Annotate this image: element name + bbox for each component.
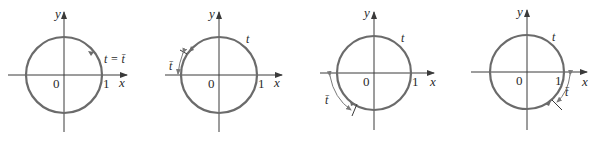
x-axis-label: x: [429, 74, 436, 89]
t-bar-label: t̄: [325, 93, 329, 107]
origin-label: 0: [53, 76, 60, 91]
t-label: t: [246, 32, 250, 46]
y-axis-label: y: [53, 6, 61, 21]
reference-arc: [330, 76, 351, 110]
panel-1: y x 0 1 t = t̄: [8, 6, 127, 132]
x-axis-label: x: [273, 75, 280, 90]
t-bar-label: t̄: [169, 59, 173, 73]
t-bar-label: t̄: [565, 85, 569, 99]
origin-label: 0: [363, 74, 370, 89]
t-label: t = t̄: [104, 52, 126, 66]
y-axis-label: y: [515, 4, 523, 19]
panel-3: y x 0 1 t t̄: [320, 5, 436, 130]
t-label: t: [552, 30, 556, 44]
unit-circle-figure: y x 0 1 t = t̄ y x 0 1 t t̄ y x 0 1 t t̄: [0, 0, 592, 141]
one-label: 1: [258, 76, 265, 91]
panel-4: y x 0 1 t t̄: [471, 4, 588, 130]
one-label: 1: [555, 73, 562, 88]
t-label: t: [401, 31, 405, 45]
origin-label: 0: [208, 76, 215, 91]
origin-label: 0: [516, 73, 523, 88]
y-axis-label: y: [207, 6, 215, 21]
one-label: 1: [412, 74, 419, 89]
x-axis-label: x: [581, 74, 588, 89]
terminal-point-tick: [352, 104, 357, 116]
terminal-point-tick: [180, 50, 187, 54]
y-axis-label: y: [362, 5, 370, 20]
one-label: 1: [103, 76, 110, 91]
panel-2: y x 0 1 t t̄: [165, 6, 282, 132]
x-axis-label: x: [118, 75, 125, 90]
